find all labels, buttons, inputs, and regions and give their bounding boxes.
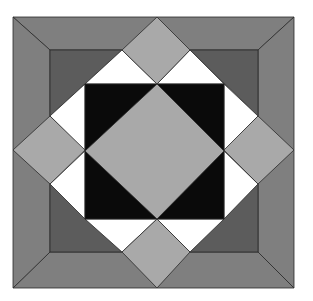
quilt-block-pattern [0, 0, 313, 301]
